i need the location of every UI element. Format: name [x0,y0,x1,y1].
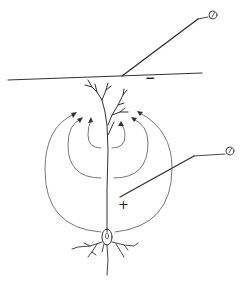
surface-electrode [122,11,217,76]
cortical-surface-line [8,73,202,80]
neuron-field-diagram [0,0,241,283]
negative-sign-label: − [145,72,155,84]
axon [107,245,108,275]
depth-electrode [120,147,234,197]
current-flow-lines [45,113,172,232]
positive-sign-label: + [118,198,129,211]
nucleus [106,233,109,239]
